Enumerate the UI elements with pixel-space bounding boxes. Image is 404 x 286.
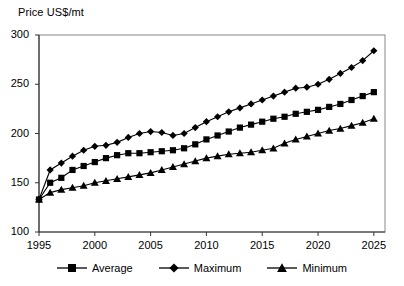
data-point-marker (103, 155, 109, 161)
data-point-marker (270, 116, 276, 122)
data-point-marker (158, 129, 165, 136)
data-point-marker (225, 108, 232, 115)
data-point-marker (326, 104, 332, 110)
data-point-marker (102, 142, 109, 149)
data-point-marker (47, 166, 54, 173)
x-axis-tick-label: 2020 (298, 239, 338, 251)
data-point-marker (181, 145, 187, 151)
data-point-marker (203, 136, 209, 142)
data-point-marker (92, 159, 98, 165)
y-axis-tick-label: 300 (3, 28, 29, 40)
data-point-marker (292, 85, 299, 92)
data-point-marker (214, 132, 220, 138)
data-point-marker (58, 159, 65, 166)
data-point-marker (159, 148, 165, 154)
legend-label: Minimum (302, 263, 347, 274)
chart-legend: AverageMaximumMinimum (0, 262, 404, 274)
data-point-marker (337, 101, 343, 107)
data-point-marker (303, 84, 310, 91)
data-point-marker (337, 70, 344, 77)
data-point-marker (58, 175, 64, 181)
x-axis-tick-label: 2000 (75, 239, 115, 251)
data-point-marker (114, 139, 121, 146)
data-point-marker (203, 118, 210, 125)
legend-label: Average (92, 263, 133, 274)
data-point-marker (293, 111, 299, 117)
legend-item-minimum: Minimum (267, 262, 347, 274)
data-point-marker (125, 150, 131, 156)
data-point-marker (248, 122, 254, 128)
data-point-marker (360, 93, 366, 99)
data-point-marker (170, 147, 176, 153)
data-point-marker (281, 114, 287, 120)
data-point-marker (304, 109, 310, 115)
x-axis-tick-label: 2025 (354, 239, 394, 251)
x-axis-tick-label: 2015 (242, 239, 282, 251)
data-point-marker (114, 152, 120, 158)
data-point-marker (371, 89, 377, 95)
series-maximum (35, 47, 377, 203)
series-average (36, 89, 377, 203)
price-line-chart: Price US$/mt 100150200250300 19952000200… (0, 0, 404, 286)
data-point-marker (236, 104, 243, 111)
data-point-marker (348, 97, 354, 103)
data-point-marker (315, 107, 321, 113)
data-point-marker (47, 180, 53, 186)
data-point-marker (348, 64, 355, 71)
legend-label: Maximum (194, 263, 242, 274)
data-point-marker (180, 130, 187, 137)
data-point-marker (80, 147, 87, 154)
y-axis-tick-label: 100 (3, 225, 29, 237)
data-point-marker (81, 163, 87, 169)
series-line (39, 92, 374, 199)
data-point-marker (247, 100, 254, 107)
data-point-marker (91, 143, 98, 150)
y-axis-tick-label: 250 (3, 77, 29, 89)
data-point-marker (125, 134, 132, 141)
legend-marker-triangle-icon (267, 262, 297, 274)
data-point-marker (281, 139, 289, 146)
y-axis-tick-label: 200 (3, 127, 29, 139)
data-point-marker (326, 76, 333, 83)
legend-item-maximum: Maximum (159, 262, 242, 274)
data-point-marker (359, 119, 367, 126)
data-point-marker (214, 113, 221, 120)
data-point-marker (148, 149, 154, 155)
data-point-marker (259, 96, 266, 103)
data-point-marker (269, 144, 277, 151)
data-point-marker (226, 128, 232, 134)
data-point-marker (281, 89, 288, 96)
series-minimum (35, 115, 378, 203)
data-point-marker (69, 167, 75, 173)
data-point-marker (69, 153, 76, 160)
data-point-marker (147, 128, 154, 135)
data-point-marker (136, 130, 143, 137)
legend-marker-square-icon (57, 262, 87, 274)
data-point-marker (370, 115, 378, 122)
data-point-marker (192, 141, 198, 147)
x-axis-tick-label: 2005 (131, 239, 171, 251)
data-point-marker (259, 119, 265, 125)
data-point-marker (270, 92, 277, 99)
legend-item-average: Average (57, 262, 133, 274)
data-point-marker (192, 124, 199, 131)
x-axis-tick-label: 2010 (186, 239, 226, 251)
x-axis-tick-label: 1995 (19, 239, 59, 251)
data-point-marker (314, 81, 321, 88)
legend-marker-diamond-icon (159, 262, 189, 274)
data-point-marker (169, 132, 176, 139)
data-point-marker (237, 124, 243, 130)
data-point-marker (136, 150, 142, 156)
y-axis-tick-label: 150 (3, 176, 29, 188)
